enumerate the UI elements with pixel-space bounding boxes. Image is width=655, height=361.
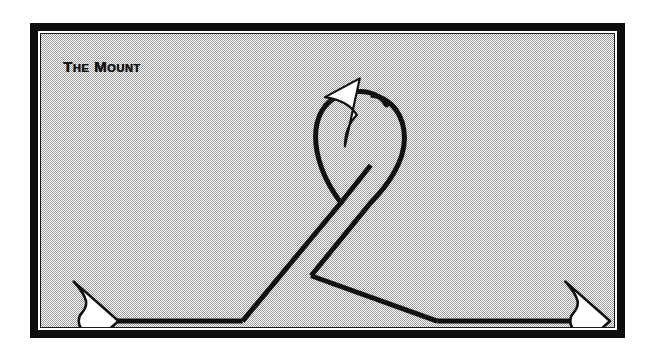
left-arrowhead-icon [74, 282, 119, 327]
frame-white-inset: The Mount [38, 31, 617, 330]
frame-hairline: The Mount [40, 33, 615, 328]
illustration-frame: The Mount [30, 23, 625, 338]
mount-loop-diagram [41, 34, 614, 327]
descending-diagonal [311, 276, 437, 321]
illustration-canvas: The Mount [41, 34, 614, 327]
page-canvas: The Mount [0, 0, 655, 361]
right-arrowhead-icon [565, 282, 610, 327]
ascending-diagonal [243, 165, 371, 321]
loop-arrowhead-icon [325, 78, 360, 146]
